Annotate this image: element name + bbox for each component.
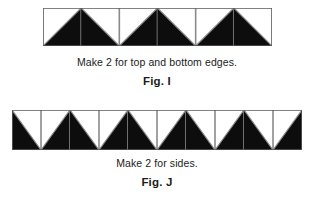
diagram-page: Make 2 for top and bottom edges. Fig. I …: [0, 0, 314, 200]
strip-i-drawing: [43, 8, 272, 46]
figure-j-label: Fig. J: [0, 176, 314, 188]
pieced-strip-fig-j: [12, 110, 302, 150]
figure-j-note: Make 2 for sides.: [0, 157, 314, 169]
figure-i-label: Fig. I: [0, 75, 314, 87]
strip-j-drawing: [12, 110, 302, 150]
figure-i-note: Make 2 for top and bottom edges.: [0, 56, 314, 68]
pieced-strip-fig-i: [43, 8, 272, 46]
